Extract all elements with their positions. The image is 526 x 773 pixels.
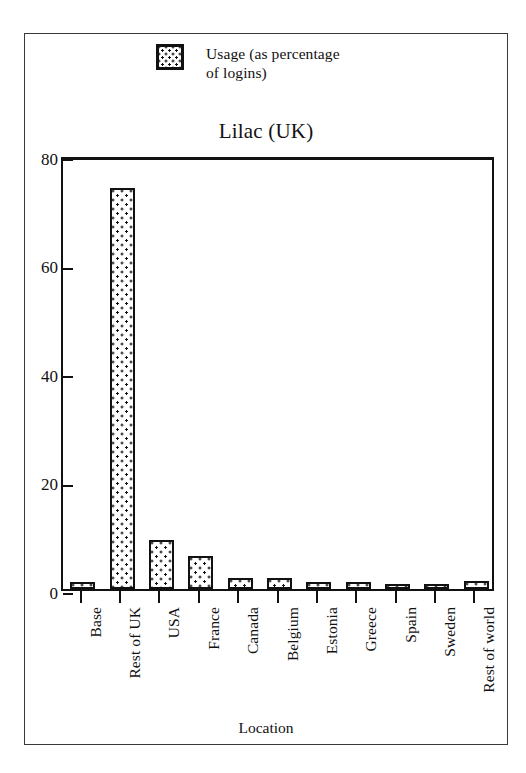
x-tick-label: USA [165, 607, 183, 638]
x-tick-label: Rest of world [480, 607, 498, 693]
dotted-pattern-swatch-icon [156, 44, 184, 70]
x-axis-title: Location [25, 719, 507, 737]
legend-label: Usage (as percentage of logins) [206, 44, 340, 82]
bar [149, 540, 174, 589]
figure-frame: Usage (as percentage of logins) Lilac (U… [24, 33, 508, 745]
y-tick-label: 40 [41, 368, 58, 385]
x-axis-tick [198, 591, 200, 603]
bar [70, 582, 95, 589]
x-axis-tick [473, 591, 475, 603]
bar [306, 582, 331, 589]
x-tick-label: Sweden [441, 607, 459, 657]
x-axis-tick [395, 591, 397, 603]
x-axis-tick [80, 591, 82, 603]
x-tick-label: Rest of UK [126, 607, 144, 679]
bar [385, 584, 410, 589]
bar [267, 578, 292, 589]
x-axis-tick [355, 591, 357, 603]
bar [424, 584, 449, 589]
x-axis-tick [237, 591, 239, 603]
y-tick-label: 60 [41, 259, 58, 276]
x-axis-tick [119, 591, 121, 603]
chart-legend: Usage (as percentage of logins) [156, 44, 340, 82]
x-tick-label: France [205, 607, 223, 650]
bars-layer [63, 160, 492, 589]
x-tick-label: Canada [244, 607, 262, 654]
bar [346, 582, 371, 589]
y-tick-label: 20 [41, 476, 58, 493]
bar [228, 578, 253, 589]
x-tick-label: Estonia [323, 607, 341, 654]
bar [188, 556, 213, 589]
y-tick-mark [63, 593, 73, 595]
y-tick-label: 0 [50, 585, 59, 602]
chart-title: Lilac (UK) [25, 119, 507, 144]
plot-area: 020406080 [61, 157, 494, 591]
bar [464, 581, 489, 589]
x-tick-label: Belgium [284, 607, 302, 661]
bar [110, 188, 135, 589]
x-axis-tick [158, 591, 160, 603]
x-axis-tick [434, 591, 436, 603]
x-tick-label: Base [87, 607, 105, 638]
y-tick-label: 80 [41, 151, 58, 168]
x-axis-tick [316, 591, 318, 603]
x-tick-label: Greece [362, 607, 380, 651]
x-axis-tick [277, 591, 279, 603]
x-tick-label: Spain [402, 607, 420, 643]
